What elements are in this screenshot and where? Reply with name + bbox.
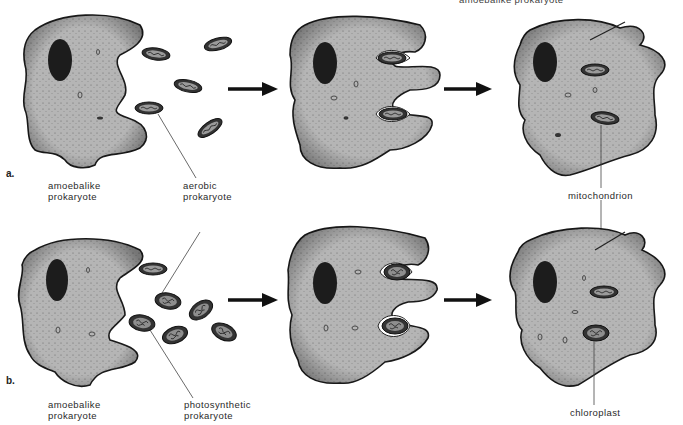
panel-label-a: a. bbox=[6, 168, 14, 179]
host-cell-b2 bbox=[288, 227, 437, 384]
nucleus bbox=[48, 39, 72, 81]
chloroplast-organelle bbox=[583, 325, 609, 341]
host-cell-b3 bbox=[510, 228, 665, 386]
label-amoebalike-b-line2: prokaryote bbox=[48, 410, 97, 422]
arrow-icon bbox=[228, 293, 278, 307]
label-aerobic-line1: aerobic bbox=[183, 180, 217, 192]
endosymbiosis-diagram bbox=[0, 0, 683, 425]
arrow-icon bbox=[444, 82, 492, 96]
photosynthetic-prokaryote bbox=[128, 313, 156, 333]
label-aerobic-line2: prokaryote bbox=[183, 191, 232, 203]
label-amoebalike-b-line1: amoebalike bbox=[48, 399, 101, 411]
label-chloroplast: chloroplast bbox=[570, 407, 620, 419]
label-photosynthetic-line1: photosynthetic bbox=[184, 399, 251, 411]
label-amoebalike-a-line2: prokaryote bbox=[48, 191, 97, 203]
label-amoebalike-a-line1: amoebalike bbox=[48, 180, 101, 192]
host-cell-a3 bbox=[514, 20, 665, 176]
label-photosynthetic-line2: prokaryote bbox=[184, 410, 233, 422]
arrow-icon bbox=[444, 293, 492, 307]
host-cell-a1 bbox=[24, 15, 147, 168]
arrow-icon bbox=[228, 82, 278, 96]
label-mitochondrion: mitochondrion bbox=[568, 190, 633, 202]
host-cell-a2 bbox=[290, 16, 440, 168]
mitochondrion-organelle-b bbox=[590, 286, 618, 298]
aerobic-prokaryote bbox=[141, 46, 170, 62]
panel-label-b: b. bbox=[6, 375, 15, 386]
host-cell-b1 bbox=[19, 239, 143, 387]
leader-line-aerobic bbox=[158, 114, 196, 178]
